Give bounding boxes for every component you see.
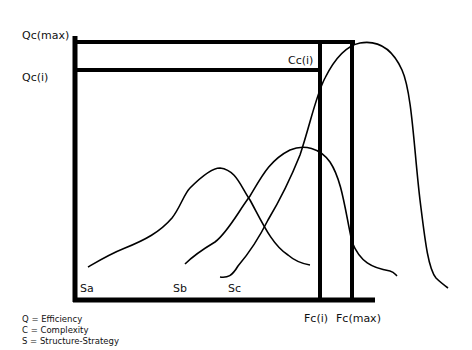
- legend-item-structure-strategy: S = Structure-Strategy: [22, 336, 119, 347]
- legend-item-complexity: C = Complexity: [22, 325, 119, 336]
- qc-max-label: Qc(max): [22, 29, 69, 42]
- qc-i-label: Qc(i): [22, 71, 48, 84]
- legend: Q = Efficiency C = Complexity S = Struct…: [22, 314, 119, 347]
- curve-label-sc: Sc: [228, 282, 241, 295]
- legend-item-efficiency: Q = Efficiency: [22, 314, 119, 325]
- cc-i-label: Cc(i): [288, 54, 313, 67]
- fc-max-label: Fc(max): [336, 312, 381, 325]
- curve-label-sb: Sb: [173, 282, 187, 295]
- curve-sc: [220, 42, 448, 288]
- efficiency-complexity-diagram: Qc(max) Qc(i) Cc(i) Fc(i) Fc(max) Sa Sb …: [0, 0, 472, 350]
- fc-i-label: Fc(i): [304, 312, 328, 325]
- curve-label-sa: Sa: [80, 282, 94, 295]
